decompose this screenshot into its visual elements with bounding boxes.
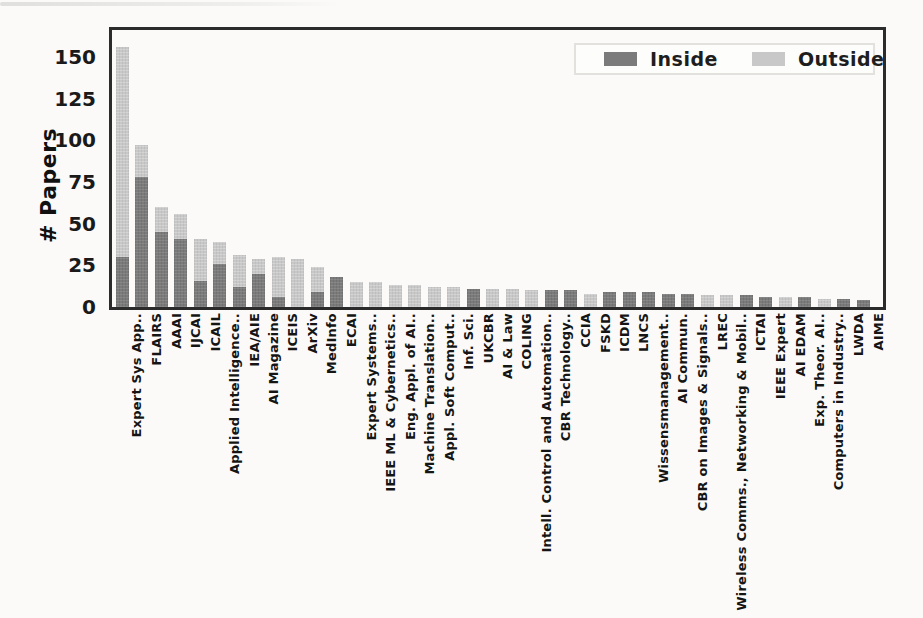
bar-segment-outside xyxy=(155,207,168,232)
bar-segment-outside xyxy=(233,255,246,287)
stacked-bar-2 xyxy=(135,145,148,307)
bar-segment-inside xyxy=(837,299,850,307)
stacked-bar-36 xyxy=(798,297,811,307)
x-tick-label: LREC xyxy=(715,313,730,351)
scanned-chart-figure: # Papers 0255075100125150 Inside Outside… xyxy=(0,0,923,618)
x-tick-label: FLAIRS xyxy=(149,313,164,366)
bar-segment-outside xyxy=(213,242,226,264)
legend-label-outside: Outside xyxy=(798,48,885,70)
x-tick-label: AI Magazine xyxy=(266,313,281,405)
bar-segment-outside xyxy=(720,295,733,307)
y-tick-label: 25 xyxy=(6,254,96,276)
x-tick-label: ICEIS xyxy=(286,313,301,351)
bar-segment-inside xyxy=(662,294,675,307)
x-tick-label: ICAIL xyxy=(208,313,223,352)
bar-segment-outside xyxy=(291,259,304,307)
bar-segment-outside xyxy=(506,289,519,307)
bar-segment-inside xyxy=(174,239,187,307)
scan-smudge xyxy=(0,2,340,6)
x-tick-label: CCIA xyxy=(578,313,593,348)
stacked-bar-39 xyxy=(857,300,870,307)
stacked-bar-27 xyxy=(623,292,636,307)
bar-segment-inside xyxy=(603,292,616,307)
y-tick-label: 0 xyxy=(6,296,96,318)
legend: Inside Outside xyxy=(574,43,875,75)
bar-segment-outside xyxy=(779,297,792,307)
stacked-bar-8 xyxy=(252,259,265,307)
stacked-bar-5 xyxy=(194,239,207,307)
stacked-bar-4 xyxy=(174,214,187,307)
bar-segment-outside xyxy=(252,259,265,274)
bar-segment-outside xyxy=(486,289,499,307)
bar-segment-inside xyxy=(116,257,129,307)
bar-segment-inside xyxy=(564,290,577,307)
bar-segment-inside xyxy=(623,292,636,307)
stacked-bar-34 xyxy=(759,297,772,307)
stacked-bar-29 xyxy=(662,294,675,307)
stacked-bar-30 xyxy=(681,294,694,307)
y-tick-label: 100 xyxy=(6,129,96,151)
bar-segment-outside xyxy=(135,145,148,177)
stacked-bar-11 xyxy=(311,267,324,307)
stacked-bar-19 xyxy=(467,289,480,307)
bar-segment-inside xyxy=(330,277,343,307)
x-tick-label: IEEE Expert xyxy=(773,313,788,399)
stacked-bar-20 xyxy=(486,289,499,307)
stacked-bar-13 xyxy=(350,282,363,307)
x-tick-label: Intell. Control and Automation.. xyxy=(539,313,554,553)
x-tick-label: ArXiv xyxy=(305,313,320,353)
bar-segment-outside xyxy=(389,285,402,307)
stacked-bar-1 xyxy=(116,47,129,307)
x-tick-label: COLING xyxy=(520,313,535,369)
stacked-bar-24 xyxy=(564,290,577,307)
bar-segment-outside xyxy=(818,299,831,307)
legend-swatch-inside xyxy=(604,52,637,66)
x-tick-label: Wissensmanagement.. xyxy=(656,313,671,483)
bar-segment-inside xyxy=(798,297,811,307)
bar-segment-outside xyxy=(116,47,129,257)
x-tick-label: AAAI xyxy=(169,313,184,349)
stacked-bar-16 xyxy=(408,285,421,307)
bar-segment-outside xyxy=(350,282,363,307)
bar-segment-inside xyxy=(233,287,246,307)
x-tick-label: IJCAI xyxy=(188,313,203,348)
x-tick-label: Eng. Appl. of AI.. xyxy=(403,313,418,440)
bar-segment-inside xyxy=(681,294,694,307)
y-axis-tick-labels: 0255075100125150 xyxy=(0,30,104,307)
x-tick-label: CBR Technology.. xyxy=(559,313,574,441)
y-tick-label: 150 xyxy=(6,46,96,68)
x-tick-label: Expert Sys App.. xyxy=(130,313,145,437)
bar-segment-outside xyxy=(174,214,187,239)
x-tick-label: AI EDAM xyxy=(793,313,808,377)
bar-segment-inside xyxy=(155,232,168,307)
x-tick-label: Applied Intelligence.. xyxy=(227,313,242,474)
bar-segment-outside xyxy=(584,294,597,307)
stacked-bar-15 xyxy=(389,285,402,307)
bar-segment-outside xyxy=(194,239,207,281)
bar-segment-outside xyxy=(525,290,538,307)
stacked-bar-25 xyxy=(584,294,597,307)
stacked-bar-6 xyxy=(213,242,226,307)
bar-segment-inside xyxy=(135,177,148,307)
x-tick-label: MedInfo xyxy=(325,313,340,374)
stacked-bar-18 xyxy=(447,287,460,307)
x-tick-label: CBR on Images & Signals.. xyxy=(695,313,710,511)
stacked-bar-35 xyxy=(779,297,792,307)
bar-segment-inside xyxy=(857,300,870,307)
stacked-bar-28 xyxy=(642,292,655,307)
bar-segment-inside xyxy=(467,289,480,307)
stacked-bar-3 xyxy=(155,207,168,307)
stacked-bar-32 xyxy=(720,295,733,307)
stacked-bar-10 xyxy=(291,259,304,307)
x-tick-label: ECAI xyxy=(344,313,359,347)
x-tick-label: ICTAI xyxy=(754,313,769,351)
y-tick-label: 125 xyxy=(6,88,96,110)
legend-label-inside: Inside xyxy=(650,48,718,70)
bar-segment-inside xyxy=(642,292,655,307)
bar-segment-inside xyxy=(759,297,772,307)
bar-segment-outside xyxy=(447,287,460,307)
stacked-bar-38 xyxy=(837,299,850,307)
stacked-bar-33 xyxy=(740,295,753,307)
stacked-bar-22 xyxy=(525,290,538,307)
stacked-bar-7 xyxy=(233,255,246,307)
